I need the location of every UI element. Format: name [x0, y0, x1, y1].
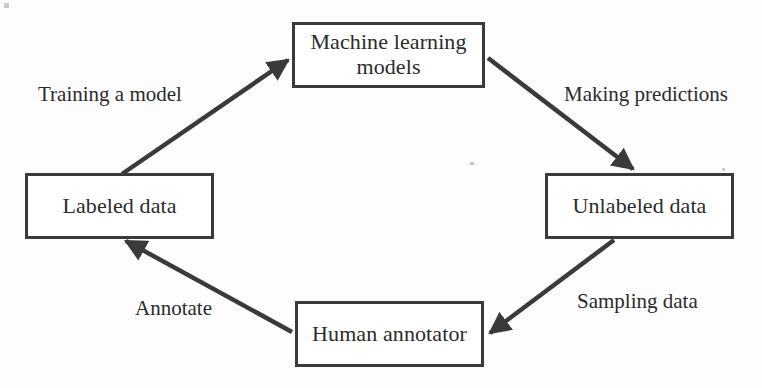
edge-unlabeled-to-annotator — [490, 240, 614, 333]
node-unlabeled-data-label: Unlabeled data — [567, 194, 713, 219]
scan-speck — [4, 3, 9, 8]
edge-label-sampling-data: Sampling data — [577, 291, 698, 312]
scan-speck — [470, 162, 474, 165]
node-labeled-data[interactable]: Labeled data — [25, 173, 214, 239]
node-human-annotator[interactable]: Human annotator — [295, 301, 484, 367]
node-unlabeled-data[interactable]: Unlabeled data — [545, 173, 734, 239]
edge-ml-to-unlabeled — [488, 58, 633, 169]
edge-label-annotate: Annotate — [135, 298, 212, 319]
edge-label-training-a-model: Training a model — [38, 84, 182, 105]
edge-label-making-predictions: Making predictions — [564, 84, 728, 105]
diagram-canvas: Machine learning models Labeled data Unl… — [0, 0, 762, 388]
node-ml-models-label: Machine learning models — [304, 30, 472, 79]
node-human-annotator-label: Human annotator — [306, 322, 473, 347]
edge-labeled-to-ml — [122, 60, 288, 174]
node-ml-models[interactable]: Machine learning models — [292, 22, 485, 88]
scan-speck — [722, 168, 725, 171]
node-labeled-data-label: Labeled data — [56, 194, 182, 219]
